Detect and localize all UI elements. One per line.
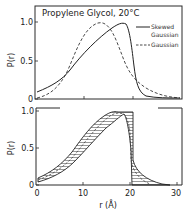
top-ytick-05: 0.5: [20, 57, 33, 66]
xtick-10: 10: [78, 189, 88, 198]
figure: 1.0 0.5 0 P(r) Propylene Glycol, 20°C Sk…: [0, 0, 192, 214]
bottom-ylabel: P(r): [7, 141, 16, 155]
top-ylabel: P(r): [7, 53, 16, 67]
bottom-panel: 1.0 0.5 0 P(r) 0 10 20 30 r (Å): [7, 107, 182, 210]
top-panel: 1.0 0.5 0 P(r) Propylene Glycol, 20°C Sk…: [7, 6, 182, 104]
top-ytick-0: 0: [28, 95, 33, 104]
bottom-ytick-0: 0: [29, 181, 34, 190]
top-ytick-1: 1.0: [20, 18, 33, 27]
legend-gaussian: Gaussian: [151, 41, 179, 48]
xtick-20: 20: [125, 189, 135, 198]
legend: Skewed Gaussian Gaussian: [136, 23, 179, 48]
uncertainty-band: [38, 112, 170, 185]
xlabel: r (Å): [99, 199, 117, 210]
xtick-30: 30: [171, 189, 181, 198]
bottom-ytick-05: 0.5: [21, 144, 34, 153]
top-plot-frame: [35, 6, 182, 99]
bottom-ytick-1: 1.0: [21, 107, 34, 116]
top-title: Propylene Glycol, 20°C: [42, 8, 140, 18]
legend-skewed-line2: Gaussian: [151, 31, 179, 38]
legend-skewed-line1: Skewed: [151, 23, 174, 30]
xtick-0: 0: [34, 189, 39, 198]
